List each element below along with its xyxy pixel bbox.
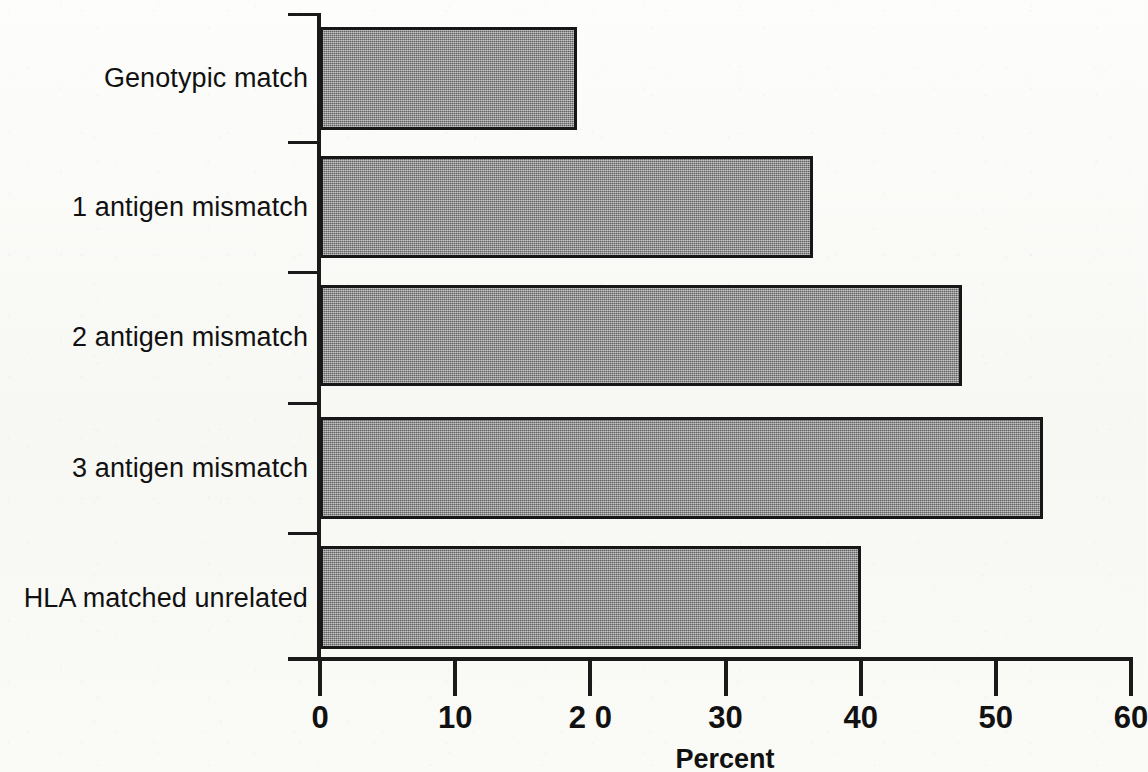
category-label-genotypic-match: Genotypic match xyxy=(104,63,308,94)
y-axis-tick xyxy=(288,271,321,274)
bar-hla-matched-unrelated[interactable] xyxy=(320,546,861,649)
bar-1-antigen-mismatch[interactable] xyxy=(320,156,813,258)
x-axis-tick xyxy=(724,660,728,696)
x-axis-tick-label: 0 xyxy=(311,700,328,736)
x-axis-tick-label: 30 xyxy=(708,700,742,736)
x-axis-tick-label: 40 xyxy=(843,700,877,736)
bar-3-antigen-mismatch[interactable] xyxy=(320,417,1043,519)
y-axis-tick xyxy=(288,532,321,535)
category-label-2-antigen-mismatch: 2 antigen mismatch xyxy=(72,322,308,353)
x-axis-tick xyxy=(994,660,998,696)
x-axis-tick xyxy=(453,660,457,696)
y-axis-tick xyxy=(288,402,321,405)
bar-2-antigen-mismatch[interactable] xyxy=(320,285,962,386)
x-axis-line xyxy=(288,657,1133,661)
x-axis-tick-label: 2 0 xyxy=(569,700,612,736)
x-axis-tick-label: 10 xyxy=(438,700,472,736)
x-axis-tick xyxy=(318,660,322,696)
x-axis-tick xyxy=(588,660,592,696)
x-axis-tick xyxy=(859,660,863,696)
x-axis-tick-label: 50 xyxy=(979,700,1013,736)
bar-genotypic-match[interactable] xyxy=(320,27,577,130)
x-axis-title: Percent xyxy=(675,744,774,772)
x-axis-tick-label: 60 xyxy=(1114,700,1148,736)
category-label-3-antigen-mismatch: 3 antigen mismatch xyxy=(72,453,308,484)
x-axis-tick xyxy=(1129,660,1133,696)
y-axis-tick xyxy=(288,141,321,144)
category-label-hla-matched-unrelated: HLA matched unrelated xyxy=(24,583,308,614)
category-label-1-antigen-mismatch: 1 antigen mismatch xyxy=(72,192,308,223)
y-axis-tick xyxy=(288,13,321,16)
